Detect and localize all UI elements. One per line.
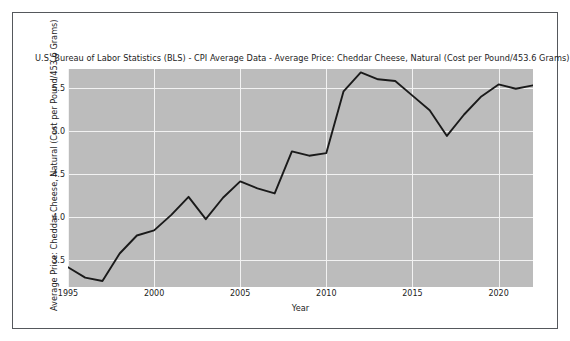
figure-frame: U.S. Bureau of Labor Statistics (BLS) - … — [12, 12, 558, 329]
x-tick-label: 2010 — [316, 289, 336, 298]
y-tick-label: 3.5 — [43, 255, 65, 264]
y-tick-label: 4.0 — [43, 212, 65, 221]
y-axis-tick-labels: 3.54.04.55.05.5 — [39, 69, 65, 287]
x-tick-label: 2005 — [230, 289, 250, 298]
x-tick-label: 1995 — [58, 289, 78, 298]
y-tick-label: 5.5 — [43, 83, 65, 92]
x-tick-label: 2015 — [402, 289, 422, 298]
x-axis-title: Year — [68, 303, 533, 313]
y-tick-label: 5.0 — [43, 126, 65, 135]
y-tick-label: 4.5 — [43, 169, 65, 178]
series-polyline — [68, 72, 533, 281]
chart-title: U.S. Bureau of Labor Statistics (BLS) - … — [35, 53, 570, 63]
screenshot-root: U.S. Bureau of Labor Statistics (BLS) - … — [0, 0, 570, 341]
line-series — [68, 69, 533, 287]
x-axis-tick-labels: 199520002005201020152020 — [68, 289, 533, 303]
x-tick-label: 2000 — [144, 289, 164, 298]
x-tick-label: 2020 — [488, 289, 508, 298]
plot-area — [68, 69, 533, 287]
